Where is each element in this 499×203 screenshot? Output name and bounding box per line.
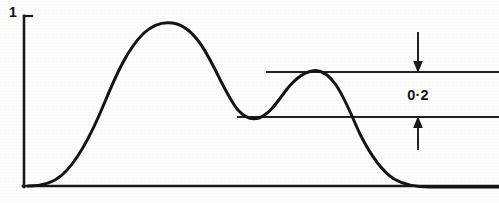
- bimodal-curve-path: [28, 23, 499, 187]
- dimension-value-label: 0·2: [407, 87, 429, 103]
- bimodal-curve-chart: 1 0·2: [0, 0, 499, 203]
- figure-container: 1 0·2: [0, 0, 499, 203]
- y-axis-max-label: 1: [9, 4, 17, 20]
